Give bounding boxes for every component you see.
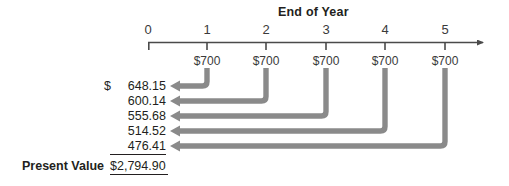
cash-flow-label-year-2: $700 [253, 55, 280, 67]
present-value-year-5: 476.41 [110, 140, 166, 153]
arrowhead-year-3 [170, 111, 180, 122]
discount-arrow-year-1 [180, 68, 207, 86]
year-label-5: 5 [441, 23, 448, 36]
present-value-total-amount: $2,794.90 [110, 160, 166, 173]
year-label-3: 3 [322, 23, 329, 36]
discount-arrowheads [170, 81, 180, 152]
axis-tick-marks [149, 43, 445, 51]
arrowhead-year-2 [170, 96, 180, 107]
total-underline [110, 174, 168, 175]
year-label-2: 2 [262, 23, 269, 36]
year-label-1: 1 [203, 23, 210, 36]
discount-arrows [180, 68, 445, 146]
cash-flow-label-year-4: $700 [372, 55, 399, 67]
arrowhead-year-5 [170, 141, 180, 152]
present-value-timeline-diagram: End of Year 0 1 2 3 4 5 $700 $700 $700 $… [0, 0, 509, 186]
cash-flow-label-year-1: $700 [194, 55, 221, 67]
year-label-0: 0 [144, 23, 151, 36]
present-value-year-4: 514.52 [110, 125, 166, 138]
cash-flow-label-year-5: $700 [432, 55, 459, 67]
discount-arrow-year-3 [180, 68, 326, 116]
page-title: End of Year [278, 6, 349, 19]
present-value-total-label: Present Value [22, 160, 104, 173]
discount-arrow-year-5 [180, 68, 445, 146]
arrowhead-year-4 [170, 126, 180, 137]
arrowhead-year-1 [170, 81, 180, 92]
present-value-year-2: 600.14 [110, 95, 166, 108]
present-value-year-1: 648.15 [110, 80, 166, 93]
present-value-year-3: 555.68 [110, 110, 166, 123]
cash-flow-label-year-3: $700 [313, 55, 340, 67]
year-label-4: 4 [381, 23, 388, 36]
